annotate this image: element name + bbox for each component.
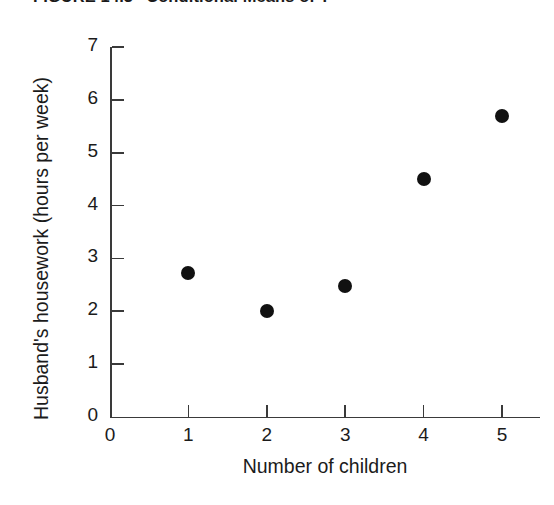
- x-tick: [423, 405, 425, 417]
- y-tick-label-text: 7: [87, 34, 98, 56]
- y-tick: [112, 258, 124, 260]
- x-tick-label-text: 0: [105, 424, 116, 446]
- x-tick-label-text: 5: [497, 424, 508, 446]
- y-tick: [112, 46, 124, 48]
- data-point: [338, 279, 352, 293]
- data-point: [417, 172, 431, 186]
- x-tick: [344, 405, 346, 417]
- y-tick-label-text: 3: [87, 245, 98, 267]
- y-tick-label-text: 2: [87, 298, 98, 320]
- y-tick: [112, 205, 124, 207]
- y-axis-title: Husband's housework (hours per week): [30, 40, 60, 420]
- y-tick: [112, 152, 124, 154]
- y-tick-label-text: 1: [87, 351, 98, 373]
- x-tick-label-text: 4: [418, 424, 429, 446]
- y-tick-label-text: 4: [87, 193, 98, 215]
- y-tick-label-text: 6: [87, 87, 98, 109]
- x-tick: [188, 405, 190, 417]
- y-tick-label-text: 5: [87, 140, 98, 162]
- x-axis-line: [110, 417, 540, 419]
- data-point: [260, 304, 274, 318]
- data-point: [495, 109, 509, 123]
- x-tick: [266, 405, 268, 417]
- y-tick: [112, 310, 124, 312]
- y-tick: [112, 363, 124, 365]
- x-tick: [501, 405, 503, 417]
- data-point: [181, 266, 195, 280]
- y-tick: [112, 99, 124, 101]
- x-tick-label-text: 2: [262, 424, 273, 446]
- scatter-chart: 01234567 012345 Number of children Husba…: [0, 0, 554, 505]
- y-tick-label-text: 0: [87, 404, 98, 426]
- x-tick-label-text: 1: [183, 424, 194, 446]
- x-axis-title: Number of children: [110, 455, 540, 478]
- x-tick-label-text: 3: [340, 424, 351, 446]
